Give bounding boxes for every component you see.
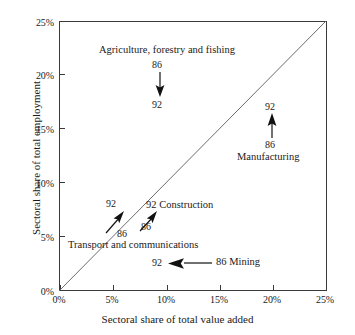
x-tick-10 — [167, 285, 168, 290]
x-tick-label-0: 0% — [39, 294, 79, 305]
y-tick-label-25: 25% — [22, 17, 54, 28]
x-tick-label-20: 20% — [252, 294, 292, 305]
y-tick-10 — [60, 182, 65, 183]
chart-figure: 25% 20% 15% 10% 5% 0% 0% 5% 10% 15% 20% … — [0, 0, 355, 335]
x-tick-20 — [273, 285, 274, 290]
plot-area — [59, 21, 326, 291]
y-tick-0 — [60, 290, 65, 291]
plot-frame-top — [59, 21, 326, 22]
x-tick-5 — [113, 285, 114, 290]
y-tick-5 — [60, 236, 65, 237]
x-axis-title: Sectoral share of total value added — [0, 313, 355, 325]
y-tick-15 — [60, 128, 65, 129]
x-tick-15 — [220, 285, 221, 290]
x-tick-label-15: 15% — [199, 294, 239, 305]
x-tick-label-25: 25% — [305, 294, 345, 305]
y-tick-20 — [60, 74, 65, 75]
x-tick-label-10: 10% — [146, 294, 186, 305]
x-tick-label-5: 5% — [92, 294, 132, 305]
plot-frame-right — [326, 21, 327, 291]
y-axis-title: Sectoral share of total employment — [30, 38, 42, 278]
